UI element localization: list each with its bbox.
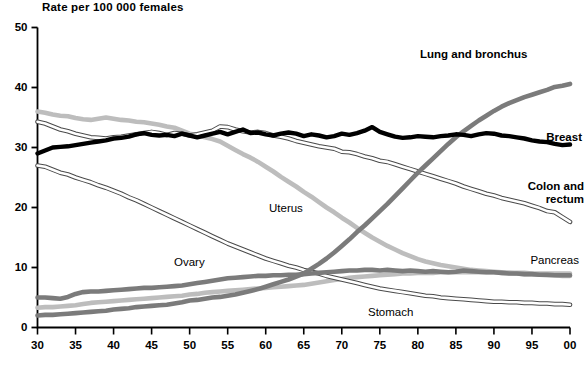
y-tick-label: 0 bbox=[2, 321, 28, 333]
series-label-stomach: Stomach bbox=[368, 306, 413, 319]
series-label-colon-and: Colon and bbox=[528, 180, 584, 193]
x-tick-label: 80 bbox=[405, 339, 431, 351]
x-tick-label: 00 bbox=[557, 339, 583, 351]
x-tick-label: 95 bbox=[519, 339, 545, 351]
x-tick-label: 30 bbox=[25, 339, 51, 351]
x-tick-label: 90 bbox=[481, 339, 507, 351]
series-label-uterus: Uterus bbox=[269, 202, 303, 215]
x-tick-label: 60 bbox=[253, 339, 279, 351]
series-label-pancreas: Pancreas bbox=[530, 254, 579, 267]
x-tick-label: 85 bbox=[443, 339, 469, 351]
x-tick-label: 50 bbox=[177, 339, 203, 351]
series-line-breast bbox=[38, 127, 571, 153]
series-label-lung-and-bronchus: Lung and bronchus bbox=[420, 48, 527, 61]
x-tick-label: 35 bbox=[63, 339, 89, 351]
x-tick-label: 65 bbox=[291, 339, 317, 351]
x-tick-label: 55 bbox=[215, 339, 241, 351]
x-tick-label: 40 bbox=[101, 339, 127, 351]
y-tick-label: 50 bbox=[2, 21, 28, 33]
series-label-ovary: Ovary bbox=[174, 256, 205, 269]
y-tick-label: 20 bbox=[2, 201, 28, 213]
x-tick-label: 75 bbox=[367, 339, 393, 351]
y-tick-label: 40 bbox=[2, 81, 28, 93]
x-tick-label: 70 bbox=[329, 339, 355, 351]
x-tick-label: 45 bbox=[139, 339, 165, 351]
series-label-rectum: rectum bbox=[546, 193, 584, 206]
series-label-breast: Breast bbox=[546, 131, 582, 144]
y-tick-label: 10 bbox=[2, 261, 28, 273]
y-tick-label: 30 bbox=[2, 141, 28, 153]
